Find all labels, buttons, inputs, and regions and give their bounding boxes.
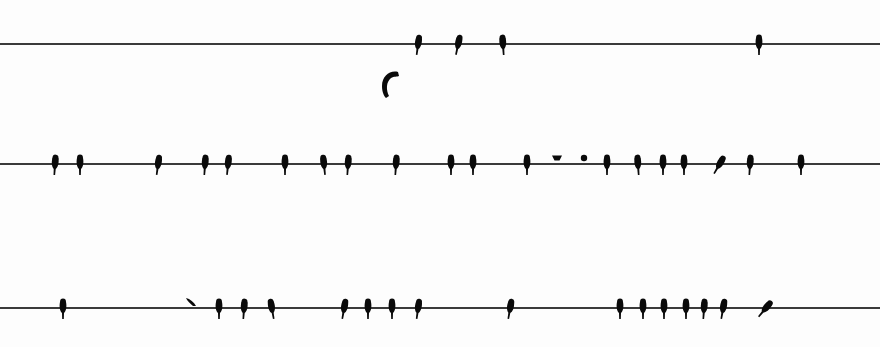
perched-bird xyxy=(392,153,400,175)
perched-bird xyxy=(682,297,690,319)
crouched-bird xyxy=(579,154,589,162)
perched-bird xyxy=(364,297,372,319)
perched-bird xyxy=(76,153,84,175)
perched-bird xyxy=(344,153,352,175)
top-wire xyxy=(0,43,880,45)
crouched-bird xyxy=(186,298,196,306)
perched-bird xyxy=(281,153,289,175)
perched-bird xyxy=(616,297,624,319)
perched-bird xyxy=(320,153,328,175)
perched-bird xyxy=(680,153,688,175)
perched-bird xyxy=(719,297,727,319)
perched-bird xyxy=(761,297,769,319)
flying-bird xyxy=(378,68,402,100)
perched-bird xyxy=(700,297,708,319)
perched-bird xyxy=(639,297,647,319)
perched-bird xyxy=(154,153,162,175)
perched-bird xyxy=(797,153,805,175)
perched-bird xyxy=(506,297,514,319)
perched-bird xyxy=(755,33,763,55)
perched-bird xyxy=(215,297,223,319)
perched-bird xyxy=(240,297,248,319)
perched-bird xyxy=(715,153,723,175)
perched-bird xyxy=(388,297,396,319)
crouched-bird xyxy=(552,154,562,162)
perched-bird xyxy=(454,33,462,55)
perched-bird xyxy=(340,297,348,319)
perched-bird xyxy=(51,153,59,175)
perched-bird xyxy=(268,297,276,319)
perched-bird xyxy=(447,153,455,175)
perched-bird xyxy=(224,153,232,175)
perched-bird xyxy=(523,153,531,175)
perched-bird xyxy=(414,33,422,55)
perched-bird xyxy=(414,297,422,319)
perched-bird xyxy=(660,297,668,319)
perched-bird xyxy=(201,153,209,175)
perched-bird xyxy=(659,153,667,175)
bottom-wire xyxy=(0,307,880,309)
bird-wire-scene xyxy=(0,0,880,347)
perched-bird xyxy=(59,297,67,319)
perched-bird xyxy=(499,33,507,55)
perched-bird xyxy=(603,153,611,175)
perched-bird xyxy=(746,153,754,175)
perched-bird xyxy=(469,153,477,175)
perched-bird xyxy=(634,153,642,175)
